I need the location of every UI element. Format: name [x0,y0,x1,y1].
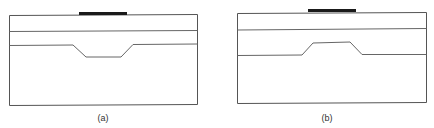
panel-a-electrode [79,12,127,15]
panel-a-substrate-outline [10,15,198,106]
panel-b-lower-interface-ridge [238,42,427,56]
panel-b-upper-interface [238,29,427,31]
panel-a-lower-interface-trough [10,44,198,57]
panel-b-substrate-outline [238,13,427,104]
panel-a-caption: (a) [98,113,109,123]
panel-b: (b) [238,9,427,123]
panel-b-caption: (b) [322,113,333,123]
panel-a-upper-interface [10,31,198,32]
panel-b-electrode [308,9,356,12]
panel-a: (a) [10,12,198,123]
waveguide-diagram: (a) (b) [0,0,434,128]
